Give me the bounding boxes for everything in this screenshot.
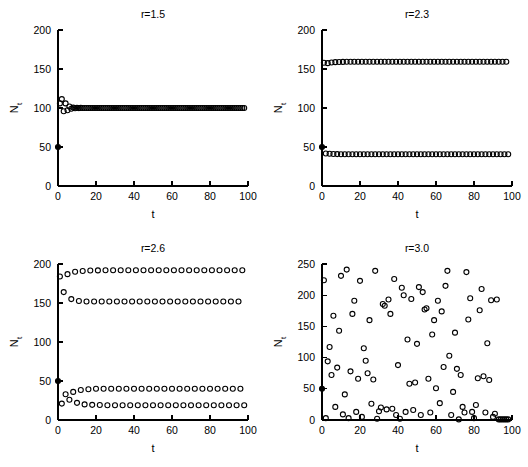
data-point [434, 386, 439, 391]
x-tick-label: 100 [503, 424, 521, 436]
y-tick-label: 200 [33, 24, 51, 36]
data-point [451, 389, 456, 394]
panel-svg-r-2-3: r=2.3050100150200020406080100tNt [264, 0, 528, 233]
svg-text:Nt: Nt [272, 102, 288, 113]
data-point [228, 299, 233, 304]
y-tick-label: 150 [33, 63, 51, 75]
x-tick-label: 100 [239, 190, 257, 202]
chart-panel-1: r=1.5050100150200020406080100tNt [0, 0, 264, 233]
data-point [183, 299, 188, 304]
data-point [449, 413, 454, 418]
x-axis-title: t [415, 442, 418, 454]
data-point [430, 332, 435, 337]
data-point [479, 286, 484, 291]
data-point [88, 268, 93, 273]
data-point [483, 410, 488, 415]
panel-title: r=3.0 [405, 242, 429, 254]
x-tick-label: 100 [239, 424, 257, 436]
data-point [462, 410, 467, 415]
data-point [445, 268, 450, 273]
data-point [166, 403, 171, 408]
data-point [441, 364, 446, 369]
data-point [399, 285, 404, 290]
data-point [160, 299, 165, 304]
data-series [56, 268, 247, 408]
data-point [466, 317, 471, 322]
data-point [171, 268, 176, 273]
data-point [454, 366, 459, 371]
data-point [196, 403, 201, 408]
data-point [223, 386, 228, 391]
svg-text:Nt: Nt [8, 102, 24, 113]
panel-svg-r-3: r=3.0050100150200250020406080100tNt [264, 234, 528, 467]
data-point [185, 386, 190, 391]
data-point [327, 344, 332, 349]
x-tick-label: 80 [204, 424, 216, 436]
data-point [354, 409, 359, 414]
x-tick-label: 20 [90, 190, 102, 202]
x-tick-label: 0 [55, 190, 61, 202]
data-point [128, 403, 133, 408]
y-tick-label: 50 [303, 382, 315, 394]
panel-svg-r-2-6: r=2.6050100150200020406080100tNt [0, 234, 264, 467]
data-point [464, 270, 469, 275]
data-point [390, 406, 395, 411]
data-point [206, 299, 211, 304]
x-tick-label: 40 [128, 190, 140, 202]
data-point [145, 299, 150, 304]
data-point [151, 403, 156, 408]
data-point [95, 268, 100, 273]
data-point [71, 389, 76, 394]
y-tick-label: 150 [33, 297, 51, 309]
data-point [107, 299, 112, 304]
data-point [109, 386, 114, 391]
x-axis-title: t [151, 442, 154, 454]
data-point [149, 268, 154, 273]
data-point [236, 299, 241, 304]
data-point [409, 296, 414, 301]
y-tick-label: 50 [39, 375, 51, 387]
data-point [97, 403, 102, 408]
data-point [133, 268, 138, 273]
y-axis-title: Nt [272, 336, 288, 347]
panel-title: r=2.6 [141, 242, 165, 254]
data-point [135, 403, 140, 408]
data-point [242, 403, 247, 408]
y-tick-label: 150 [297, 320, 315, 332]
data-point [384, 407, 389, 412]
data-point [101, 386, 106, 391]
data-series [320, 267, 511, 422]
x-tick-label: 60 [430, 424, 442, 436]
data-point [475, 376, 480, 381]
data-point [238, 386, 243, 391]
data-point [80, 269, 85, 274]
data-point [204, 403, 209, 408]
data-point [405, 337, 410, 342]
data-point [105, 403, 110, 408]
data-point [371, 377, 376, 382]
data-point [86, 387, 91, 392]
data-point [208, 386, 213, 391]
data-point [154, 386, 159, 391]
data-point [200, 386, 205, 391]
chart-panel-3: r=2.6050100150200020406080100tNt [0, 234, 264, 467]
data-point [325, 359, 330, 364]
x-tick-label: 40 [392, 190, 404, 202]
data-point [386, 297, 391, 302]
data-point [152, 299, 157, 304]
y-tick-label: 50 [303, 141, 315, 153]
data-point [84, 299, 89, 304]
data-point [192, 386, 197, 391]
data-point [240, 268, 245, 273]
data-point [103, 268, 108, 273]
data-point [164, 268, 169, 273]
data-point [59, 97, 64, 102]
data-point [358, 278, 363, 283]
data-point [453, 330, 458, 335]
y-tick-label: 100 [297, 351, 315, 363]
data-point [365, 371, 370, 376]
data-point [481, 374, 486, 379]
data-point [339, 273, 344, 278]
data-point [456, 417, 461, 422]
x-tick-label: 20 [354, 190, 366, 202]
